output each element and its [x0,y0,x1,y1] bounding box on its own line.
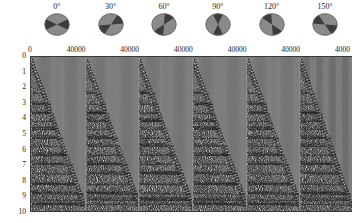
x-tick-label: 4000 [165,45,189,54]
beachball-icon [205,13,231,36]
focal-mechanism-cell: 60° [137,0,192,46]
seismic-panel [31,57,85,211]
x-tick-label: 0 [82,45,86,54]
focal-mechanism-angle-label: 60° [137,2,192,11]
beachball-icon [98,13,124,36]
x-tick-label: 4000 [326,45,350,54]
focal-mechanism-angle-label: 150° [298,2,353,11]
y-tick-label: 0 [22,52,26,60]
focal-mechanism-cell: 90° [190,0,245,46]
beachball-icon [312,13,338,36]
focal-mechanism-angle-label: 30° [83,2,138,11]
y-tick-label: 10 [19,208,27,216]
focal-mechanism-cell: 120° [244,0,299,46]
figure-root: 0°30°60°90°120°150° 04000040000400004000… [0,0,359,223]
beachball-icon [259,13,285,36]
seismic-panel [246,57,301,211]
focal-mechanism-row: 0°30°60°90°120°150° [0,0,359,46]
y-tick-label: 2 [22,83,26,91]
x-tick-label: 0 [135,45,139,54]
focal-mechanism-angle-label: 90° [190,2,245,11]
seismic-panel [299,57,352,211]
y-tick-label: 6 [22,146,26,154]
y-tick-label: 3 [22,99,26,107]
x-tick-label: 4000 [219,45,243,54]
x-tick-label: 0 [243,45,247,54]
y-tick-label: 1 [22,68,26,76]
seismic-panel [138,57,193,211]
focal-mechanism-angle-label: 0° [29,2,84,11]
y-tick-label: 9 [22,192,26,200]
plot-frame [30,56,352,212]
focal-mechanism-angle-label: 120° [244,2,299,11]
x-axis-tick-row: 040000400004000040000400004000 [0,45,359,56]
focal-mechanism-cell: 0° [29,0,84,46]
y-tick-label: 5 [22,130,26,138]
focal-mechanism-cell: 150° [298,0,353,46]
y-tick-label: 7 [22,161,26,169]
seismic-panel [85,57,140,211]
x-tick-label: 0 [189,45,193,54]
x-tick-label: 4000 [111,45,135,54]
beachball-icon [44,13,70,36]
beachball-icon [151,13,177,36]
x-tick-label: 4000 [58,45,82,54]
y-axis-tick-labels: 012345678910 [0,0,30,223]
x-tick-label: 0 [296,45,300,54]
seismic-panel [192,57,247,211]
y-tick-label: 4 [22,114,26,122]
x-tick-label: 4000 [272,45,296,54]
y-tick-label: 8 [22,177,26,185]
focal-mechanism-cell: 30° [83,0,138,46]
